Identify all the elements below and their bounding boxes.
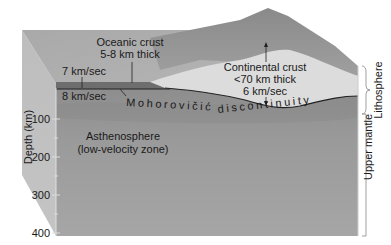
continental-crust-thickness: <70 km thick: [234, 73, 297, 85]
mantle-velocity-label: 8 km/sec: [62, 90, 107, 102]
depth-axis-label: Depth (km): [22, 110, 34, 164]
oceanic-crust-label: Oceanic crust: [96, 36, 163, 48]
depth-tick-100: 100: [32, 113, 50, 125]
asthenosphere-label: Asthenosphere: [86, 130, 160, 142]
asthenosphere-sublabel: (low-velocity zone): [77, 143, 168, 155]
oceanic-velocity-label: 7 km/sec: [62, 65, 107, 77]
continental-crust-label: Continental crust: [224, 61, 307, 73]
lithosphere-label: Lithosphere: [372, 61, 384, 119]
oceanic-crust-thickness: 5-8 km thick: [100, 48, 160, 60]
continental-velocity-label: 6 km/sec: [243, 85, 288, 97]
lithosphere-bracket: [362, 66, 370, 114]
earth-layers-diagram: 100 200 300 400 Depth (km) Oceanic crust…: [0, 0, 391, 245]
depth-tick-400: 400: [32, 227, 50, 239]
depth-tick-300: 300: [32, 189, 50, 201]
depth-tick-200: 200: [32, 151, 50, 163]
upper-mantle-label: Upper mantle: [362, 114, 374, 180]
